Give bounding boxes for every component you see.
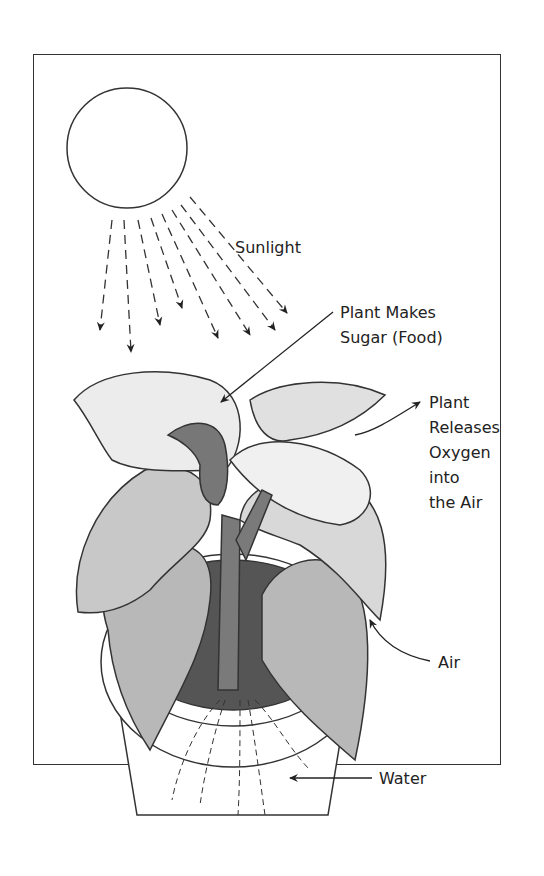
oxygen-label: Plant Releases Oxygen into the Air	[429, 390, 500, 515]
air-label: Air	[438, 650, 460, 675]
sunlight-label: Sunlight	[235, 235, 301, 260]
oxygen-label-line1: Plant	[429, 390, 500, 415]
sun-icon	[67, 88, 187, 208]
oxygen-label-line3: Oxygen	[429, 440, 500, 465]
water-label: Water	[379, 766, 426, 791]
sugar-label-line2: Sugar (Food)	[340, 325, 443, 350]
oxygen-label-line4: into	[429, 465, 500, 490]
air-arrow	[370, 620, 430, 661]
sugar-label: Plant Makes Sugar (Food)	[340, 300, 443, 350]
oxygen-label-line5: the Air	[429, 490, 500, 515]
sugar-label-line1: Plant Makes	[340, 300, 443, 325]
sunlight-rays	[100, 197, 287, 352]
oxygen-label-line2: Releases	[429, 415, 500, 440]
